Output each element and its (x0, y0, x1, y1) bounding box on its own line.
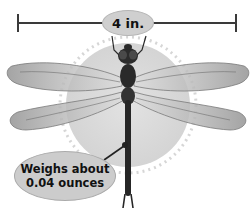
weight-callout-line2: 0.04 ounces (26, 176, 104, 190)
dragonfly-figure: 4 in. Weighs about 0.04 ounces (0, 0, 252, 215)
weight-callout-line1: Weighs about (21, 162, 110, 176)
ruler-end-left (17, 14, 19, 32)
weight-callout: Weighs about 0.04 ounces (14, 151, 116, 201)
ruler-end-right (235, 14, 237, 32)
length-label: 4 in. (102, 10, 154, 36)
length-label-text: 4 in. (112, 16, 144, 31)
